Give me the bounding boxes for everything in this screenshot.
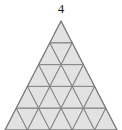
triangular-grid-diagram (0, 0, 122, 130)
triangle-cells (5, 21, 117, 130)
triangle-figure: 4 (0, 0, 122, 130)
triangle-cell-up (50, 21, 72, 43)
